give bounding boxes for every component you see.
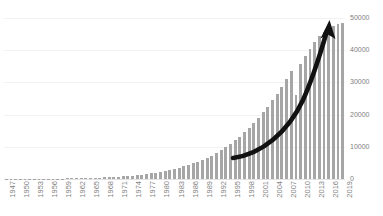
bar xyxy=(42,179,45,180)
bar xyxy=(140,175,143,179)
bar xyxy=(108,177,111,179)
bar xyxy=(98,178,101,179)
bar xyxy=(252,123,255,179)
x-tick-label: 2010 xyxy=(304,181,312,198)
bar xyxy=(327,28,330,179)
x-tick-label: 1953 xyxy=(37,181,45,198)
bar xyxy=(117,177,120,179)
bar xyxy=(52,179,55,180)
x-tick-label: 2001 xyxy=(262,181,270,198)
bar xyxy=(159,172,162,179)
x-tick-label: 1998 xyxy=(248,181,256,198)
bar xyxy=(38,179,41,180)
bar xyxy=(196,162,199,179)
bar xyxy=(224,147,227,179)
bar xyxy=(215,153,218,179)
bar xyxy=(304,56,307,179)
x-tick-label: 1947 xyxy=(9,181,17,198)
x-tick-label: 2016 xyxy=(332,181,340,198)
y-tick-label: 40000 xyxy=(350,46,369,53)
bar xyxy=(220,150,223,179)
bar xyxy=(112,177,115,179)
x-tick-label: 2013 xyxy=(318,181,326,198)
bar xyxy=(206,158,209,179)
x-tick-label: 2019 xyxy=(346,181,354,198)
x-tick-label: 2007 xyxy=(290,181,298,198)
bar xyxy=(337,24,340,179)
bar xyxy=(295,95,298,179)
x-tick-label: 1950 xyxy=(23,181,31,198)
bar xyxy=(122,176,125,179)
bar xyxy=(238,137,241,180)
x-tick-label: 1989 xyxy=(206,181,214,198)
x-tick-label: 1968 xyxy=(107,181,115,198)
plot-area xyxy=(4,18,345,179)
x-tick-label: 1962 xyxy=(79,181,87,198)
bar xyxy=(229,144,232,179)
bar xyxy=(126,176,129,179)
x-tick-label: 1977 xyxy=(149,181,157,198)
x-tick-label: 1983 xyxy=(178,181,186,198)
y-tick-label: 30000 xyxy=(350,78,369,85)
bar xyxy=(150,173,153,179)
bar xyxy=(248,128,251,179)
bar xyxy=(243,132,246,179)
bar xyxy=(173,169,176,179)
bar xyxy=(318,36,321,179)
bar xyxy=(33,179,36,180)
bar-series xyxy=(4,18,345,179)
bar xyxy=(187,165,190,179)
bar xyxy=(84,178,87,179)
bar xyxy=(276,94,279,179)
bar xyxy=(131,176,134,180)
bar xyxy=(182,166,185,179)
bar xyxy=(164,171,167,179)
bar xyxy=(70,178,73,179)
bar xyxy=(323,32,326,179)
bar xyxy=(56,179,59,180)
bar xyxy=(210,156,213,180)
bar xyxy=(5,179,8,180)
bar xyxy=(154,173,157,179)
bar xyxy=(19,179,22,180)
bar xyxy=(257,118,260,179)
bar xyxy=(103,177,106,179)
y-tick-label: 50000 xyxy=(350,14,369,21)
bar xyxy=(24,179,27,180)
x-tick-label: 1971 xyxy=(121,181,129,198)
bar xyxy=(14,179,17,180)
bar xyxy=(94,178,97,179)
x-axis: 1947195019531956195919621965196819711974… xyxy=(4,181,345,216)
bar xyxy=(309,49,312,179)
x-tick-label: 1965 xyxy=(93,181,101,198)
bar xyxy=(332,26,335,179)
bar-chart: 01000020000300004000050000 1947195019531… xyxy=(0,0,383,216)
bar xyxy=(262,112,265,179)
bar xyxy=(61,179,64,180)
x-tick-label: 1986 xyxy=(192,181,200,198)
bar xyxy=(290,71,293,179)
x-tick-label: 1974 xyxy=(135,181,143,198)
gridline-0 xyxy=(4,179,345,180)
y-tick-label: 20000 xyxy=(350,111,369,118)
bar xyxy=(66,178,69,179)
bar xyxy=(271,100,274,179)
bar xyxy=(28,179,31,180)
x-tick-label: 1992 xyxy=(220,181,228,198)
bar xyxy=(80,178,83,179)
bar xyxy=(192,163,195,179)
bar xyxy=(168,170,171,179)
bar xyxy=(280,87,283,179)
bar xyxy=(10,179,13,180)
bar xyxy=(266,107,269,179)
bar xyxy=(234,140,237,179)
bar xyxy=(299,64,302,179)
bar xyxy=(145,174,148,179)
bar xyxy=(136,175,139,179)
bar xyxy=(285,79,288,179)
x-tick-label: 2004 xyxy=(276,181,284,198)
y-tick-label: 10000 xyxy=(350,143,369,150)
x-tick-label: 1959 xyxy=(65,181,73,198)
bar xyxy=(178,168,181,179)
bar xyxy=(313,42,316,179)
